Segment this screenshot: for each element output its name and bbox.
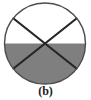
- figure-caption: (b): [0, 84, 91, 100]
- circle-diagram: [0, 0, 91, 88]
- lower-half-shaded-region: [3, 44, 88, 87]
- figure-container: (b): [0, 0, 91, 100]
